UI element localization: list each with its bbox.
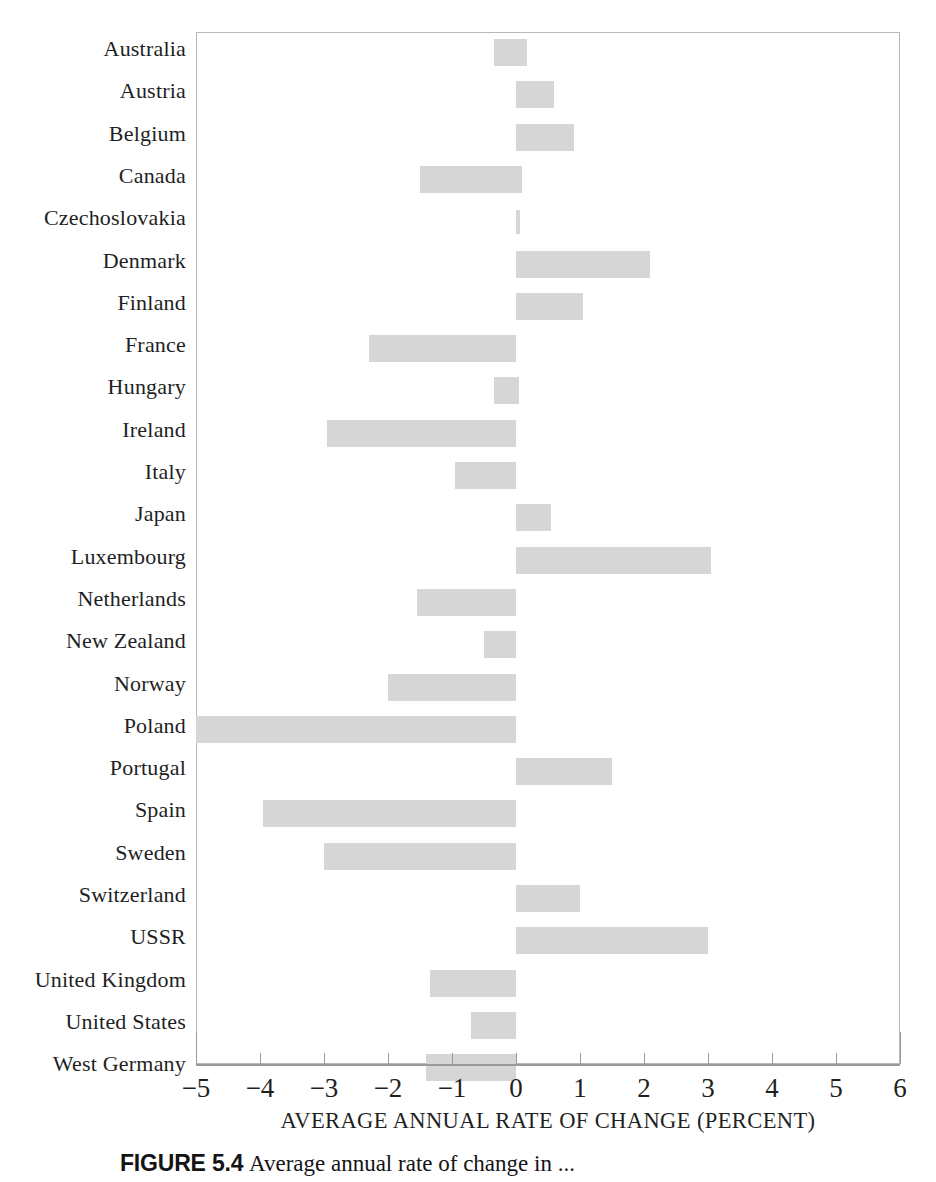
bar-canada bbox=[420, 166, 522, 193]
category-label: Canada bbox=[0, 163, 186, 189]
category-label: United Kingdom bbox=[0, 967, 186, 993]
category-label: Australia bbox=[0, 36, 186, 62]
x-tick bbox=[452, 1053, 453, 1064]
category-label: Italy bbox=[0, 459, 186, 485]
bar-australia bbox=[494, 39, 527, 66]
category-label: Ireland bbox=[0, 417, 186, 443]
x-tick bbox=[196, 1032, 197, 1064]
category-label: Norway bbox=[0, 671, 186, 697]
x-tick-label: 6 bbox=[870, 1072, 930, 1104]
category-label: Spain bbox=[0, 797, 186, 823]
bar-portugal bbox=[516, 758, 612, 785]
bar-denmark bbox=[516, 251, 650, 278]
x-tick-label: 5 bbox=[806, 1072, 866, 1104]
x-tick-label: 1 bbox=[550, 1072, 610, 1104]
bar-poland bbox=[196, 716, 516, 743]
bar-spain bbox=[263, 800, 516, 827]
bar-japan bbox=[516, 504, 551, 531]
bar-hungary bbox=[494, 377, 520, 404]
x-tick bbox=[708, 1053, 709, 1064]
bar-new-zealand bbox=[484, 631, 516, 658]
x-tick-label: 0 bbox=[486, 1072, 546, 1104]
category-label: USSR bbox=[0, 924, 186, 950]
category-label: France bbox=[0, 332, 186, 358]
category-label: Finland bbox=[0, 290, 186, 316]
category-label: Austria bbox=[0, 78, 186, 104]
x-axis-line bbox=[196, 1064, 900, 1066]
bar-italy bbox=[455, 462, 516, 489]
category-label: Japan bbox=[0, 501, 186, 527]
figure-caption: FIGURE 5.4 Average annual rate of change… bbox=[120, 1148, 920, 1179]
bar-norway bbox=[388, 674, 516, 701]
x-tick-label: 2 bbox=[614, 1072, 674, 1104]
x-tick-label: 3 bbox=[678, 1072, 738, 1104]
caption-number: FIGURE 5.4 bbox=[120, 1150, 243, 1176]
bar-czechoslovakia bbox=[516, 210, 520, 234]
bar-luxembourg bbox=[516, 547, 711, 574]
category-label: Poland bbox=[0, 713, 186, 739]
x-tick bbox=[580, 1053, 581, 1064]
category-label: Luxembourg bbox=[0, 544, 186, 570]
category-label: Netherlands bbox=[0, 586, 186, 612]
bar-france bbox=[369, 335, 516, 362]
category-axis: AustraliaAustriaBelgiumCanadaCzechoslova… bbox=[0, 32, 186, 1064]
bar-ussr bbox=[516, 927, 708, 954]
category-label: Belgium bbox=[0, 121, 186, 147]
bars-layer bbox=[196, 32, 900, 1064]
x-tick bbox=[324, 1053, 325, 1064]
bar-austria bbox=[516, 81, 554, 108]
bar-switzerland bbox=[516, 885, 580, 912]
category-label: United States bbox=[0, 1009, 186, 1035]
category-label: Denmark bbox=[0, 248, 186, 274]
bar-united-states bbox=[471, 1012, 516, 1039]
x-tick-label: 4 bbox=[742, 1072, 802, 1104]
category-label: Portugal bbox=[0, 755, 186, 781]
category-label: Czechoslovakia bbox=[0, 205, 186, 231]
x-axis-title: AVERAGE ANNUAL RATE OF CHANGE (PERCENT) bbox=[196, 1108, 900, 1134]
bar-sweden bbox=[324, 843, 516, 870]
bar-netherlands bbox=[417, 589, 516, 616]
x-tick bbox=[388, 1053, 389, 1064]
category-label: Hungary bbox=[0, 374, 186, 400]
x-tick-label: −5 bbox=[166, 1072, 226, 1104]
x-tick-label: −1 bbox=[422, 1072, 482, 1104]
x-tick bbox=[900, 1032, 901, 1064]
x-tick-label: −4 bbox=[230, 1072, 290, 1104]
bar-ireland bbox=[327, 420, 516, 447]
category-label: New Zealand bbox=[0, 628, 186, 654]
x-tick bbox=[260, 1053, 261, 1064]
figure-container: AustraliaAustriaBelgiumCanadaCzechoslova… bbox=[0, 0, 936, 1182]
category-label: Switzerland bbox=[0, 882, 186, 908]
x-tick bbox=[836, 1053, 837, 1064]
x-tick bbox=[772, 1053, 773, 1064]
caption-text: Average annual rate of change in ... bbox=[249, 1151, 575, 1176]
bar-united-kingdom bbox=[430, 970, 516, 997]
x-tick-label: −3 bbox=[294, 1072, 354, 1104]
x-tick bbox=[516, 1053, 517, 1064]
bar-finland bbox=[516, 293, 583, 320]
bar-belgium bbox=[516, 124, 574, 151]
category-label: West Germany bbox=[0, 1051, 186, 1077]
x-tick-label: −2 bbox=[358, 1072, 418, 1104]
category-label: Sweden bbox=[0, 840, 186, 866]
x-tick bbox=[644, 1053, 645, 1064]
